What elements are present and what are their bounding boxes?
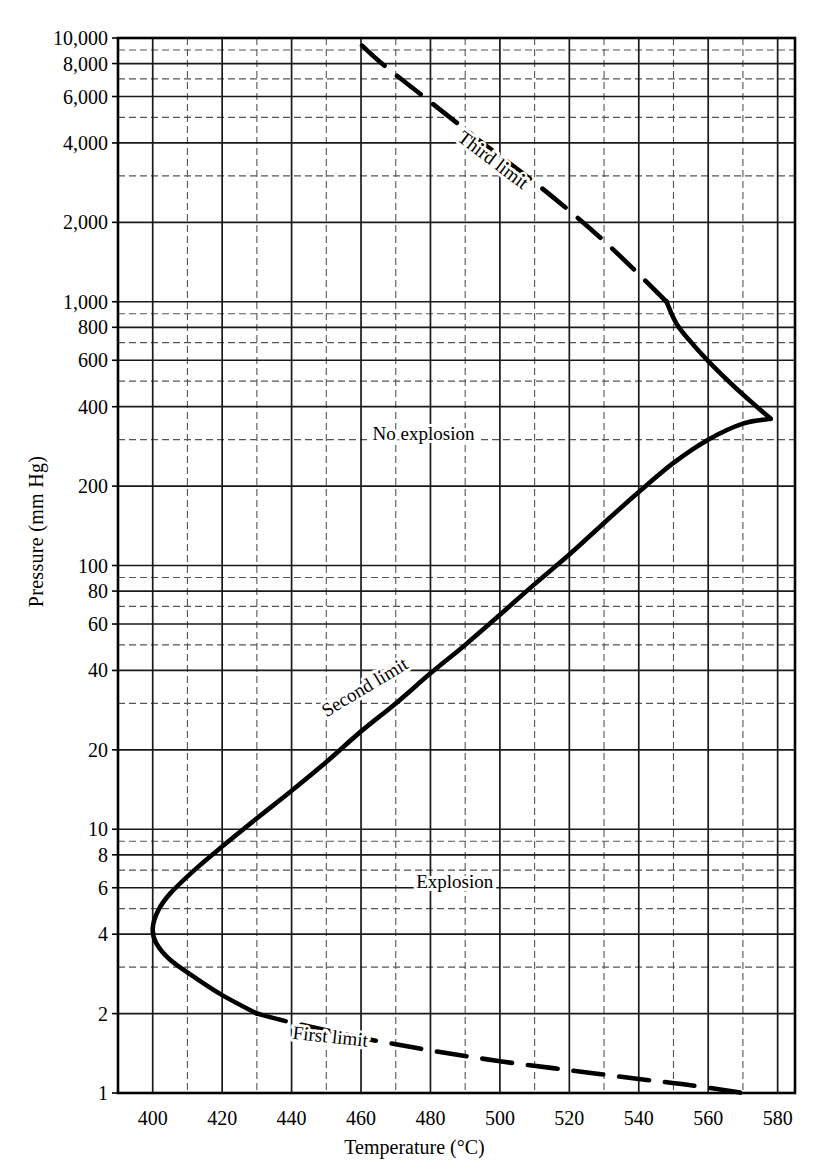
y-tick-label: 1,000	[63, 291, 108, 313]
y-tick-label: 1	[98, 1082, 108, 1104]
y-tick-label: 40	[88, 659, 108, 681]
y-tick-label: 400	[78, 396, 108, 418]
y-tick-label: 2,000	[63, 211, 108, 233]
x-tick-label: 580	[763, 1107, 793, 1129]
y-tick-label: 100	[78, 555, 108, 577]
x-tick-label: 540	[624, 1107, 654, 1129]
y-axis-title: Pressure (mm Hg)	[25, 412, 48, 652]
x-tick-label: 500	[485, 1107, 515, 1129]
y-tick-label: 4	[98, 923, 108, 945]
y-tick-label: 6	[98, 877, 108, 899]
y-tick-label: 600	[78, 349, 108, 371]
x-tick-label: 420	[207, 1107, 237, 1129]
x-tick-label: 560	[693, 1107, 723, 1129]
y-tick-label: 8	[98, 844, 108, 866]
y-tick-label: 8,000	[63, 53, 108, 75]
x-axis-title: Temperature (°C)	[0, 1136, 829, 1159]
explosion-limits-chart: 1246810204060801002004006008001,0002,000…	[0, 0, 829, 1176]
y-tick-label: 4,000	[63, 132, 108, 154]
x-tick-label: 400	[138, 1107, 168, 1129]
x-tick-label: 460	[346, 1107, 376, 1129]
y-tick-label: 800	[78, 316, 108, 338]
chart-root: 1246810204060801002004006008001,0002,000…	[0, 0, 829, 1176]
x-tick-label: 520	[554, 1107, 584, 1129]
y-tick-label: 80	[88, 580, 108, 602]
no-explosion-label: No explosionNo explosion	[373, 423, 475, 444]
y-tick-label: 2	[98, 1003, 108, 1025]
y-tick-label: 20	[88, 739, 108, 761]
y-tick-label: 200	[78, 475, 108, 497]
x-tick-label: 440	[277, 1107, 307, 1129]
no-explosion-label-text: No explosion	[373, 423, 475, 444]
y-tick-label: 10	[88, 818, 108, 840]
y-tick-label: 10,000	[53, 27, 108, 49]
x-tick-label: 480	[415, 1107, 445, 1129]
y-tick-label: 60	[88, 613, 108, 635]
explosion-label-text: Explosion	[416, 871, 494, 892]
explosion-label: ExplosionExplosion	[416, 871, 494, 892]
y-tick-label: 6,000	[63, 86, 108, 108]
